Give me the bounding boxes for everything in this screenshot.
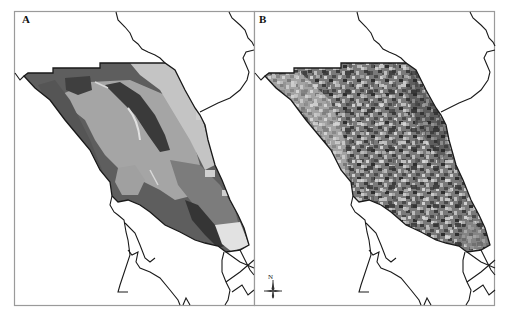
north-arrow-label: N: [268, 273, 273, 281]
panel-a-label: A: [22, 13, 30, 25]
figure: A B N: [0, 0, 507, 315]
panel-b-label: B: [259, 13, 266, 25]
panel-a: [14, 12, 255, 306]
panel-b: [254, 12, 495, 306]
